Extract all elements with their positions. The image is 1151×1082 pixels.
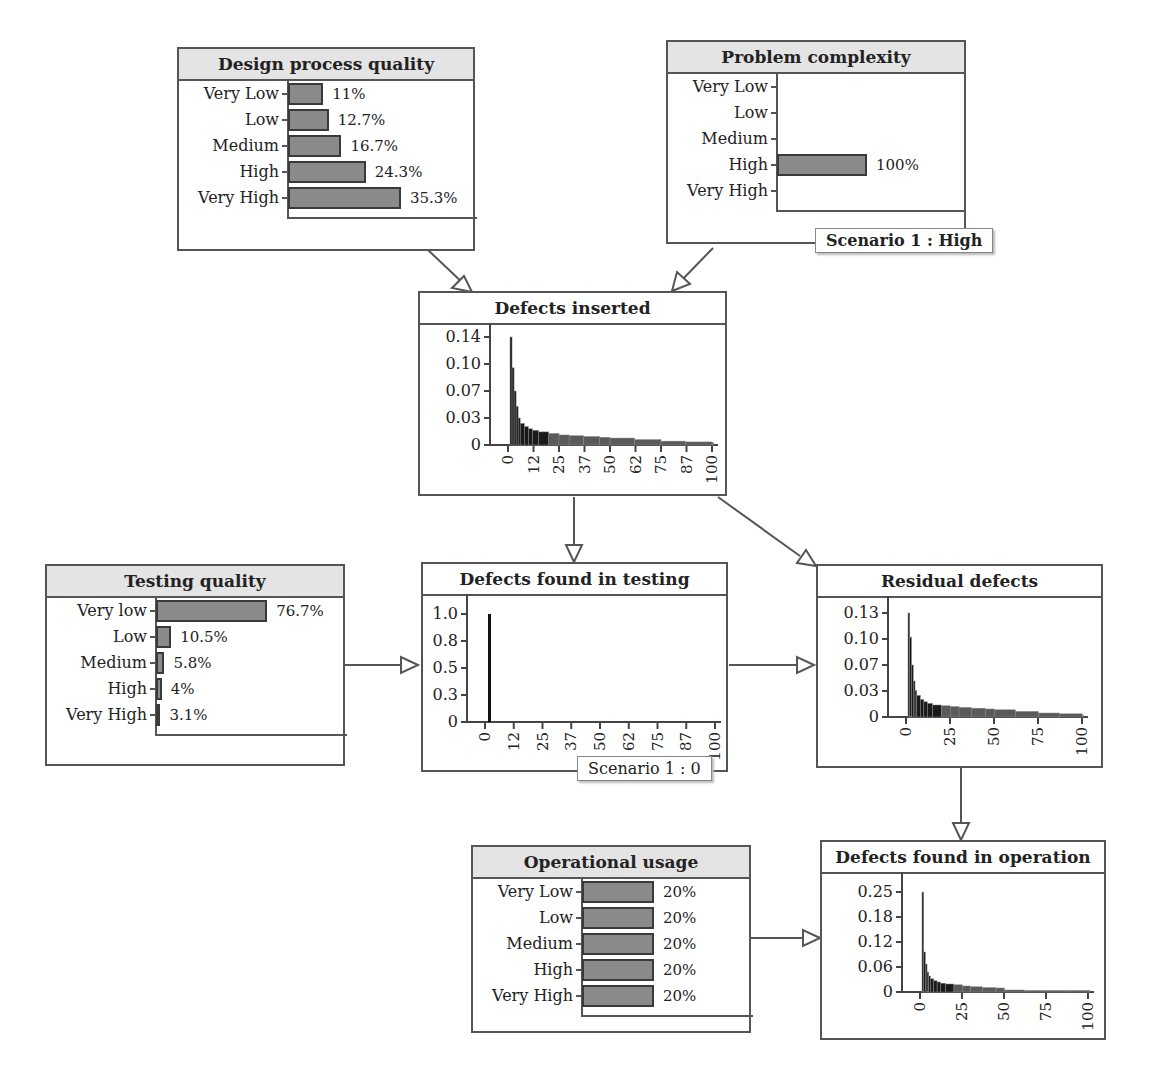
y-tick-label: 0.14 xyxy=(445,327,481,346)
histogram-bar xyxy=(930,979,933,992)
node-defects-found-in-operation[interactable]: Defects found in operation 0.250.180.120… xyxy=(820,840,1106,1040)
state-probability-value: 3.1% xyxy=(169,702,207,728)
state-probability-bar xyxy=(288,83,323,105)
histogram-bar xyxy=(915,691,917,717)
axis-tick xyxy=(150,610,155,612)
scenario-label: Scenario 1 : 0 xyxy=(577,756,712,781)
arrowhead-icon xyxy=(953,823,969,840)
x-tick-label: 50 xyxy=(995,1002,1013,1021)
x-tick-label: 25 xyxy=(550,455,568,474)
node-title: Design process quality xyxy=(179,49,473,81)
histogram-bar xyxy=(600,437,610,445)
arrowhead-icon xyxy=(401,657,418,673)
state-probability-value: 100% xyxy=(876,152,919,178)
state-bar-chart: Very Low11%Low12.7%Medium16.7%High24.3%V… xyxy=(179,79,475,239)
histogram-bar xyxy=(712,443,714,445)
state-probability-bar xyxy=(582,907,654,929)
x-tick-label: 100 xyxy=(1079,1002,1097,1031)
bar-plot-area xyxy=(776,72,966,212)
histogram-bar xyxy=(937,982,940,992)
histogram-bar xyxy=(954,985,962,992)
x-tick-label: 0 xyxy=(476,732,494,742)
histogram-bar xyxy=(927,703,932,717)
axis-tick xyxy=(282,197,287,199)
scenario-label: Scenario 1 : High xyxy=(815,228,993,253)
state-probability-value: 10.5% xyxy=(180,624,228,650)
histogram-bar xyxy=(518,418,520,445)
node-residual-defects[interactable]: Residual defects 0.130.100.070.030025507… xyxy=(816,564,1103,768)
x-tick-label: 75 xyxy=(1037,1002,1055,1021)
state-probability-bar xyxy=(582,881,654,903)
axis-tick xyxy=(771,86,776,88)
y-tick-label: 0.8 xyxy=(433,631,458,650)
x-tick-label: 0 xyxy=(897,727,915,737)
y-tick-label: 0.10 xyxy=(843,629,879,648)
node-operational-usage[interactable]: Operational usage Very Low20%Low20%Mediu… xyxy=(471,845,751,1033)
axis-tick xyxy=(282,93,287,95)
x-tick-label: 100 xyxy=(1073,727,1091,756)
histogram-bar xyxy=(950,707,959,717)
state-label: Medium xyxy=(47,650,147,676)
node-title: Operational usage xyxy=(473,847,749,879)
histogram-bar xyxy=(1059,714,1082,717)
x-tick-label: 12 xyxy=(505,732,523,751)
histogram-bar xyxy=(488,614,491,722)
state-label: Medium xyxy=(668,126,768,152)
state-label: Medium xyxy=(179,133,279,159)
histogram-bar xyxy=(925,964,927,992)
state-label: Very Low xyxy=(668,74,768,100)
state-label: Very Low xyxy=(179,81,279,107)
y-tick-label: 1.0 xyxy=(433,604,458,623)
histogram-bar xyxy=(922,892,924,992)
state-probability-bar xyxy=(777,154,867,176)
state-label: Very High xyxy=(47,702,147,728)
state-bar-chart: Very Low20%Low20%Medium20%High20%Very Hi… xyxy=(473,877,751,1027)
y-tick-label: 0.13 xyxy=(843,603,879,622)
state-probability-value: 20% xyxy=(663,957,696,983)
x-tick-label: 37 xyxy=(562,732,580,751)
x-tick-label: 0 xyxy=(911,1002,929,1012)
axis-tick xyxy=(576,891,581,893)
state-probability-value: 24.3% xyxy=(375,159,423,185)
node-testing-quality[interactable]: Testing quality Very low76.7%Low10.5%Med… xyxy=(45,564,345,766)
histogram-bar xyxy=(1038,713,1059,717)
node-title: Testing quality xyxy=(47,566,343,598)
histogram-bar xyxy=(510,337,512,445)
node-design-process-quality[interactable]: Design process quality Very Low11%Low12.… xyxy=(177,47,475,251)
x-tick-label: 25 xyxy=(953,1002,971,1021)
histogram-bar xyxy=(524,426,528,445)
state-label: Low xyxy=(179,107,279,133)
histogram-bar xyxy=(940,983,945,992)
y-tick-label: 0.18 xyxy=(857,907,893,926)
axis-tick xyxy=(282,119,287,121)
histogram-bar xyxy=(549,433,559,445)
histogram-bar xyxy=(982,988,995,992)
histogram-bar xyxy=(994,710,1015,717)
histogram-bar xyxy=(1066,990,1088,992)
histogram-bar xyxy=(520,423,524,445)
axis-tick xyxy=(771,164,776,166)
state-bar-chart: Very low76.7%Low10.5%Medium5.8%High4%Ver… xyxy=(47,596,345,756)
node-title: Defects found in operation xyxy=(822,842,1104,874)
state-label: High xyxy=(668,152,768,178)
histogram-bar xyxy=(962,986,970,992)
x-tick-label: 75 xyxy=(1029,727,1047,746)
node-problem-complexity[interactable]: Problem complexity Very LowLowMediumHigh… xyxy=(666,40,966,244)
x-tick-label: 87 xyxy=(678,455,696,474)
x-tick-label: 25 xyxy=(534,732,552,751)
state-label: Medium xyxy=(473,931,573,957)
state-label: Low xyxy=(668,100,768,126)
histogram-bar xyxy=(929,976,931,992)
node-defects-found-in-testing[interactable]: Defects found in testing 1.00.80.50.3001… xyxy=(421,562,728,772)
histogram-bar xyxy=(539,432,549,445)
state-label: Very High xyxy=(668,178,768,204)
histogram-bar xyxy=(924,702,928,717)
state-label: Very High xyxy=(179,185,279,211)
arrowhead-icon xyxy=(566,545,582,562)
state-probability-value: 16.7% xyxy=(350,133,398,159)
histogram-bar xyxy=(941,706,950,717)
histogram-bar xyxy=(933,705,942,717)
node-defects-inserted[interactable]: Defects inserted 0.140.100.070.030012253… xyxy=(418,291,727,496)
arrowhead-icon xyxy=(797,657,814,673)
histogram-bar xyxy=(1024,990,1046,992)
